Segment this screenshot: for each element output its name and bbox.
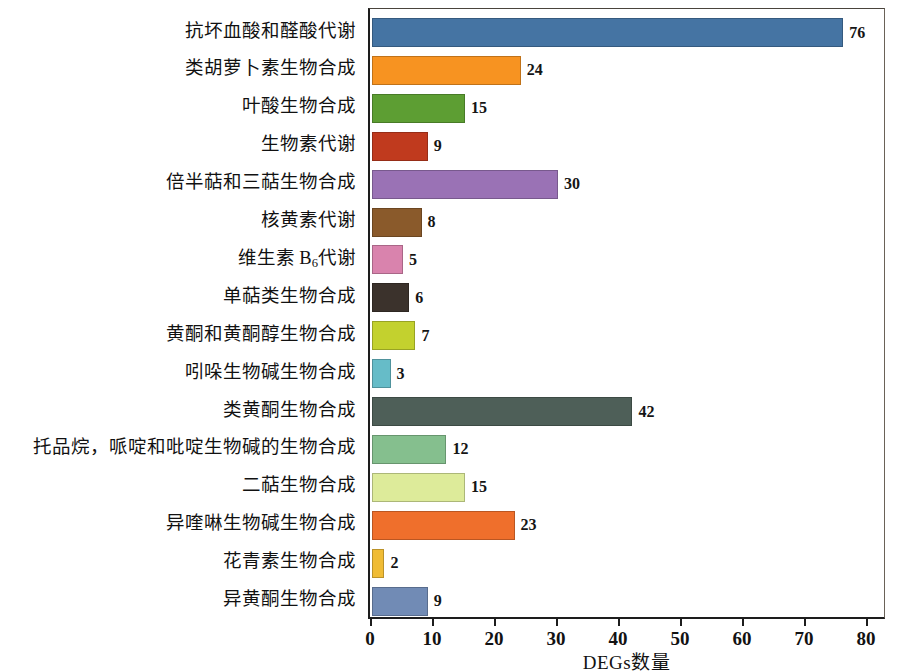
bar [372, 56, 521, 85]
bar-row: 15 [370, 473, 487, 502]
bar-row: 30 [370, 170, 580, 199]
bar [372, 94, 465, 123]
x-axis-tick-label: 0 [365, 629, 375, 648]
category-label: 吲哚生物碱生物合成 [0, 363, 356, 382]
bar-row: 5 [370, 245, 417, 274]
x-axis-tick-label: 10 [423, 629, 442, 648]
category-label: 类胡萝卜素生物合成 [0, 59, 356, 78]
x-axis-tick [866, 619, 868, 626]
bar-row: 9 [370, 132, 442, 161]
x-axis-tick [680, 619, 682, 626]
subscript-6: 6 [312, 256, 318, 270]
bar [372, 18, 843, 47]
bar-row: 6 [370, 283, 423, 312]
x-axis-tick-label: 70 [795, 629, 814, 648]
bar [372, 359, 391, 388]
category-label: 抗坏血酸和醛酸代谢 [0, 22, 356, 41]
category-label: 黄酮和黄酮醇生物合成 [0, 325, 356, 344]
plot-area: 762415930856734212152329 [368, 8, 885, 619]
bar [372, 397, 632, 426]
bar-row: 42 [370, 397, 654, 426]
bars-layer: 762415930856734212152329 [370, 9, 884, 617]
bar-row: 24 [370, 56, 543, 85]
category-label: 异喹啉生物碱生物合成 [0, 514, 356, 533]
bar [372, 208, 422, 237]
bar [372, 473, 465, 502]
bar-value-label: 2 [390, 555, 398, 571]
category-label: 倍半萜和三萜生物合成 [0, 173, 356, 192]
category-label: 异黄酮生物合成 [0, 590, 356, 609]
bar [372, 245, 403, 274]
x-axis-tick [370, 619, 372, 626]
bar-value-label: 8 [428, 214, 436, 230]
x-axis-title: DEGs数量 [368, 647, 885, 672]
category-label: 核黄素代谢 [0, 211, 356, 230]
category-label: 叶酸生物合成 [0, 97, 356, 116]
category-label: 维生素 B6代谢 [0, 249, 356, 269]
category-label: 单萜类生物合成 [0, 287, 356, 306]
x-axis-tick [804, 619, 806, 626]
x-axis-tick [494, 619, 496, 626]
bar-value-label: 9 [434, 593, 442, 609]
bar-row: 9 [370, 587, 442, 616]
x-axis-tick [618, 619, 620, 626]
bar-row: 76 [370, 18, 865, 47]
bar-value-label: 5 [409, 252, 417, 268]
x-axis-tick [556, 619, 558, 626]
bar [372, 549, 384, 578]
bar-row: 15 [370, 94, 487, 123]
bar-value-label: 24 [527, 62, 543, 78]
x-axis-tick [432, 619, 434, 626]
category-label: 花青素生物合成 [0, 552, 356, 571]
bar-row: 3 [370, 359, 405, 388]
bar [372, 587, 428, 616]
bar [372, 132, 428, 161]
category-label: 托品烷，哌啶和吡啶生物碱的生物合成 [0, 438, 356, 457]
bar-value-label: 42 [638, 404, 654, 420]
x-axis-tick-label: 80 [857, 629, 876, 648]
bar [372, 170, 558, 199]
bar-value-label: 30 [564, 176, 580, 192]
bar [372, 321, 415, 350]
bar-value-label: 3 [397, 366, 405, 382]
category-label: 二萜生物合成 [0, 476, 356, 495]
bar-value-label: 9 [434, 138, 442, 154]
bar-value-label: 76 [849, 25, 865, 41]
bar [372, 435, 446, 464]
bar-row: 7 [370, 321, 429, 350]
bar-value-label: 12 [452, 441, 468, 457]
category-label: 生物素代谢 [0, 135, 356, 154]
x-axis-tick [742, 619, 744, 626]
x-axis-tick-label: 20 [485, 629, 504, 648]
x-axis-tick-label: 40 [609, 629, 628, 648]
category-label: 类黄酮生物合成 [0, 401, 356, 420]
bar-row: 23 [370, 511, 537, 540]
bar [372, 511, 515, 540]
bar-row: 2 [370, 549, 398, 578]
bar-value-label: 15 [471, 100, 487, 116]
bar-value-label: 6 [415, 290, 423, 306]
bar-value-label: 15 [471, 479, 487, 495]
bar-value-label: 23 [521, 517, 537, 533]
bar-value-label: 7 [421, 328, 429, 344]
x-axis-tick-label: 30 [547, 629, 566, 648]
x-axis: DEGs数量 01020304050607080 [368, 619, 885, 672]
bar [372, 283, 409, 312]
x-axis-tick-label: 60 [733, 629, 752, 648]
bar-row: 8 [370, 208, 436, 237]
deg-pathway-bar-chart: 抗坏血酸和醛酸代谢类胡萝卜素生物合成叶酸生物合成生物素代谢倍半萜和三萜生物合成核… [0, 0, 916, 672]
bar-row: 12 [370, 435, 468, 464]
x-axis-tick-label: 50 [671, 629, 690, 648]
category-axis-labels: 抗坏血酸和醛酸代谢类胡萝卜素生物合成叶酸生物合成生物素代谢倍半萜和三萜生物合成核… [0, 8, 362, 619]
